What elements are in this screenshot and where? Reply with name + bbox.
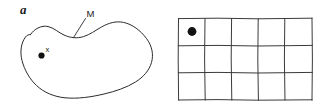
grid-vline-4 [284, 19, 285, 101]
grid-point-dot [188, 27, 197, 36]
manifold-point-dot [38, 52, 44, 58]
grid-vline-1 [205, 19, 206, 100]
panel-b: b [165, 0, 333, 109]
panel-b-drawing [165, 0, 333, 109]
figure-container: a M x b [0, 0, 333, 109]
grid-horizontal-lines [178, 18, 312, 100]
manifold-outline [21, 22, 153, 98]
grid-hline-3 [179, 100, 312, 101]
grid-hline-2 [178, 72, 312, 73]
grid-vertical-lines [178, 18, 312, 100]
manifold-leader-line [74, 19, 86, 38]
manifold-point-label-x: x [46, 45, 50, 54]
panel-a-drawing: M x [0, 0, 168, 109]
panel-a: a M x [0, 0, 168, 109]
grid-hline-0 [179, 18, 313, 19]
manifold-label-m: M [87, 8, 95, 19]
grid-vline-3 [258, 19, 259, 100]
grid-hline-1 [178, 45, 312, 46]
grid-vline-2 [231, 19, 232, 101]
